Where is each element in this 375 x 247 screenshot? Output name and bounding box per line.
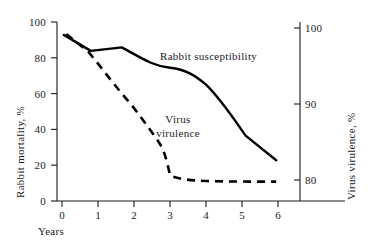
series-label-virus-virulence-line1: Virus [148, 113, 208, 127]
series-label-virus-virulence: Virus virulence [148, 113, 208, 141]
x-tick-label-3: 3 [160, 210, 180, 221]
y2-tick-label-90: 90 [305, 99, 331, 110]
series-label-rabbit-susceptibility: Rabbit susceptibility [160, 50, 257, 64]
y-tick-label-80: 80 [20, 53, 46, 64]
y-axis-left-title: Rabbit mortality, % [14, 106, 26, 198]
x-tick-label-4: 4 [196, 210, 216, 221]
x-axis-ticks [62, 201, 278, 207]
y-tick-label-60: 60 [20, 89, 46, 100]
y-axis-right-title: Virus virulence, % [345, 112, 357, 200]
y2-tick-label-100: 100 [305, 23, 331, 34]
x-tick-label-2: 2 [124, 210, 144, 221]
x-tick-label-0: 0 [52, 210, 72, 221]
x-tick-label-5: 5 [232, 210, 252, 221]
chart-figure: 100 80 60 40 20 0 0 1 2 3 4 5 6 100 90 8… [0, 0, 375, 247]
y-axis-right-ticks [294, 28, 300, 180]
x-axis-title: Years [38, 225, 64, 237]
series-label-virus-virulence-line2: virulence [148, 127, 208, 141]
x-tick-label-1: 1 [88, 210, 108, 221]
y-tick-label-100: 100 [20, 17, 46, 28]
x-tick-label-6: 6 [268, 210, 288, 221]
y2-tick-label-80: 80 [305, 175, 331, 186]
y-axis-left-ticks [51, 22, 57, 201]
